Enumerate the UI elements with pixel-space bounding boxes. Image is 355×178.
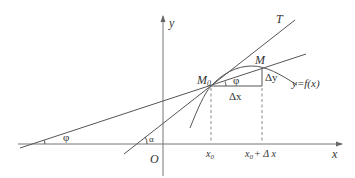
point-m0-label: M0 bbox=[196, 73, 211, 88]
origin-label: O bbox=[150, 152, 159, 166]
y-axis-label: y bbox=[168, 16, 175, 30]
derivative-geometric-diagram: y x O T y=f(x) M0 M Δx Δy φ φ α x0 x0+ Δ… bbox=[0, 0, 355, 178]
tangent-angle-label: α bbox=[149, 134, 154, 144]
curve-label: y=f(x) bbox=[291, 77, 320, 90]
x0-plus-dx-tick-label: x0+ Δ x bbox=[244, 148, 276, 161]
point-m-label: M bbox=[254, 53, 266, 67]
delta-x-label: Δx bbox=[229, 90, 242, 102]
secant-angle-label: φ bbox=[63, 131, 69, 143]
secant-angle-at-m0-label: φ bbox=[233, 74, 239, 86]
tangent-label: T bbox=[276, 12, 284, 26]
secant-angle-arc-at-m0 bbox=[225, 82, 226, 87]
delta-y-label: Δy bbox=[265, 71, 278, 83]
x-axis-label: x bbox=[331, 147, 338, 161]
secant-angle-arc bbox=[44, 140, 45, 144]
tangent-angle-arc bbox=[145, 137, 147, 144]
x0-tick-label: x0 bbox=[205, 148, 214, 161]
